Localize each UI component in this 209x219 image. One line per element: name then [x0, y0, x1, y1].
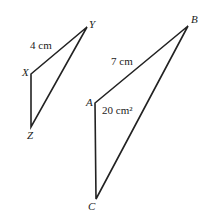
vertex-label-z: Z — [27, 130, 33, 141]
area-label-abc: 20 cm² — [102, 105, 133, 116]
side-label-xy: 4 cm — [30, 40, 52, 51]
vertex-label-y: Y — [89, 19, 95, 30]
vertex-label-c: C — [88, 201, 95, 212]
vertex-label-b: B — [191, 14, 198, 25]
similar-triangles-figure: Y X Z 4 cm B A C 7 cm 20 cm² — [0, 0, 209, 219]
vertex-label-a: A — [86, 97, 93, 108]
side-label-ab: 7 cm — [111, 56, 133, 67]
vertex-label-x: X — [22, 67, 29, 78]
